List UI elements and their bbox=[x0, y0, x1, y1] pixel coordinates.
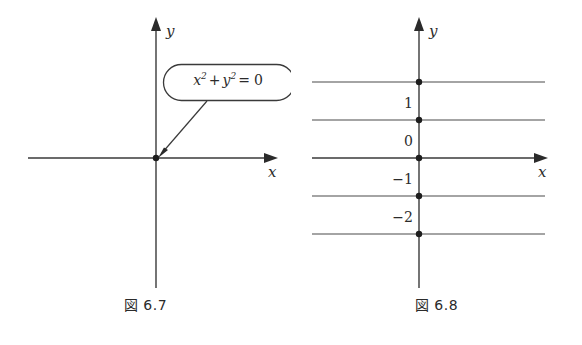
y-axis-arrowhead-icon bbox=[414, 17, 424, 31]
equation-plus-operator: + bbox=[207, 72, 223, 88]
y-tick-label-minus-2: −2 bbox=[369, 209, 413, 225]
figure-caption: 図 6.7 bbox=[0, 294, 291, 314]
x-axis-label: x bbox=[268, 163, 276, 181]
point-marker-y2 bbox=[416, 79, 422, 85]
y-axis-arrowhead-icon bbox=[151, 17, 161, 31]
x-axis-label: x bbox=[538, 163, 546, 181]
x-axis-arrowhead-icon bbox=[534, 153, 548, 163]
figure-6-8: 1 0 −1 −2 y x 図 6.8 bbox=[291, 0, 582, 345]
x-axis-arrowhead-icon bbox=[264, 153, 278, 163]
equation-right-hand-side: 0 bbox=[252, 72, 265, 88]
point-marker-y1 bbox=[416, 117, 422, 123]
origin-point-marker bbox=[153, 155, 159, 161]
point-marker-y-minus-2 bbox=[416, 231, 422, 237]
y-tick-label-0: 0 bbox=[369, 133, 413, 149]
y-tick-label-1: 1 bbox=[369, 95, 413, 111]
equation-term1-base: x bbox=[193, 72, 201, 88]
equation-equals-operator: = bbox=[236, 72, 252, 88]
y-tick-label-minus-1: −1 bbox=[369, 171, 413, 187]
y-axis-label: y bbox=[429, 22, 437, 40]
equation-term1-exponent: 2 bbox=[201, 71, 207, 81]
equation-label: x2+y2=0 bbox=[163, 72, 295, 88]
callout-leader-line bbox=[162, 101, 207, 153]
y-axis-label: y bbox=[166, 22, 174, 40]
callout-arrowhead-icon bbox=[158, 148, 168, 159]
figure-6-7: x2+y2=0 y x 図 6.7 bbox=[0, 0, 291, 345]
point-marker-y0 bbox=[416, 155, 422, 161]
figure-caption: 図 6.8 bbox=[291, 294, 582, 314]
point-marker-y-minus-1 bbox=[416, 193, 422, 199]
